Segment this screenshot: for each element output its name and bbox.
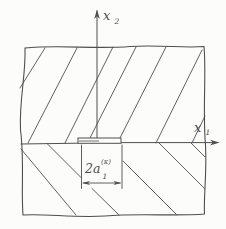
figure-canvas: x 2 x 1 2a (κ) 1 (0, 0, 226, 229)
x2-axis-label: x (103, 8, 111, 23)
x2-axis-label-subscript: 2 (114, 17, 120, 26)
crack-length-label: 2a (84, 161, 100, 176)
crack-length-label-superscript: (κ) (101, 158, 111, 166)
crack-diagram-figure: x 2 x 1 2a (κ) 1 (0, 0, 226, 229)
x1-axis-label: x (194, 120, 202, 135)
x1-axis-label-subscript: 1 (206, 128, 211, 137)
crack-group (78, 138, 121, 143)
figure-background (0, 0, 226, 229)
crack-length-label-subscript: 1 (103, 172, 108, 181)
